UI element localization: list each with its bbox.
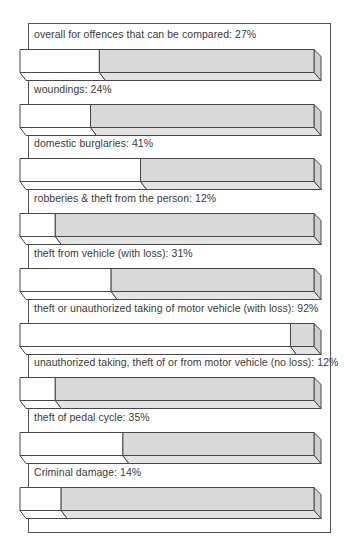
bar-4 [20,269,321,300]
bar-front-white [20,159,141,182]
bar-8 [20,488,321,519]
bar-5 [20,324,321,355]
bar-front-white [20,214,55,237]
bar-bevel-white [20,456,129,464]
bar-front-white [20,488,61,511]
bar-bevel-grey [55,401,321,409]
bar-2 [20,159,321,190]
bar-3 [20,214,321,245]
bar-6 [20,378,321,409]
bar-bevel-white [20,128,97,136]
bar-front-grey [290,324,314,347]
bar-front-white [20,378,55,401]
bar-bevel-white [20,182,147,190]
bar-front-grey [55,378,314,401]
bar-front-grey [141,159,314,182]
bar-bevel-grey [141,182,321,190]
bar-0 [20,50,321,81]
bar-bevel-grey [61,511,321,519]
bar-front-grey [61,488,314,511]
bar-front-grey [111,269,314,292]
bar-front-grey [99,50,314,73]
bar-front-white [20,105,91,128]
chart-container: overall for offences that can be compare… [0,0,344,551]
bar-bevel-grey [91,128,321,136]
bar-front-white [20,324,290,347]
bar-bevel-grey [55,237,321,245]
bar-bevel-white [20,401,61,409]
bar-front-grey [123,433,314,456]
bar-7 [20,433,321,464]
bar-bevel-white [20,237,61,245]
bar-bevel-grey [99,73,321,81]
bar-front-grey [91,105,314,128]
bars-svg [0,0,344,551]
bar-front-white [20,50,99,73]
bar-bevel-white [20,73,105,81]
bar-1 [20,105,321,136]
bar-bevel-white [20,292,117,300]
bar-bevel-grey [111,292,321,300]
bar-bevel-grey [123,456,321,464]
bar-front-white [20,269,111,292]
bar-bevel-white [20,511,67,519]
bar-front-white [20,433,123,456]
bar-bevel-white [20,347,296,355]
bar-front-grey [55,214,314,237]
